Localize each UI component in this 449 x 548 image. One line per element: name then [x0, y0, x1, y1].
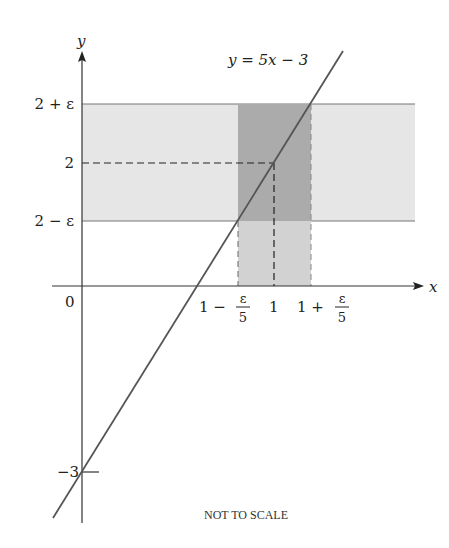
equation-label: y = 5x − 3	[227, 51, 308, 69]
y-tick-label-2: 2	[64, 154, 74, 172]
x-tick-frac-num-right: ε	[339, 291, 346, 306]
x-tick-label-1: 1	[269, 298, 279, 316]
y-tick-label-2-minus-eps: 2 − ε	[35, 212, 75, 230]
origin-label: 0	[65, 293, 75, 311]
x-tick-label-1-minus: 1 −	[199, 298, 226, 316]
not-to-scale-caption: NOT TO SCALE	[204, 508, 288, 522]
x-tick-frac-den-left: 5	[239, 310, 247, 325]
epsilon-delta-diagram: y x y = 5x − 3 2 + ε 2 2 − ε −3 0 1 − ε …	[0, 0, 449, 548]
y-axis-label: y	[76, 32, 86, 50]
x-tick-frac-num-left: ε	[240, 291, 247, 306]
x-tick-label-1-plus: 1 +	[297, 298, 324, 316]
x-axis-label: x	[429, 278, 438, 296]
y-tick-label-minus3: −3	[57, 463, 79, 481]
y-tick-label-2-plus-eps: 2 + ε	[35, 95, 75, 113]
x-tick-frac-den-right: 5	[338, 310, 346, 325]
